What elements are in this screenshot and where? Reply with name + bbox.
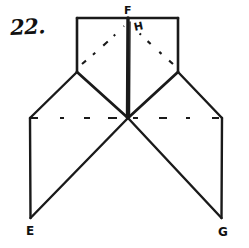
edge-left-vertical (30, 118, 31, 218)
edge-center-fold-line (128, 18, 129, 118)
edge-G-to-center (128, 118, 222, 218)
dashed-left-inner-arc (82, 26, 124, 64)
edge-right-wing-upper (178, 72, 222, 118)
edge-left-wing-upper (30, 72, 77, 118)
figure-canvas: 22. F H E G (0, 0, 249, 248)
figure-number-label: 22. (9, 15, 45, 38)
edge-left-shoulder-to-center (77, 72, 128, 118)
vertex-label-G: G (218, 226, 228, 238)
vertex-label-E: E (26, 225, 34, 237)
edge-right-shoulder-to-center (128, 72, 178, 118)
edge-center-fold-line-shadow (130, 22, 131, 116)
edge-E-to-center (31, 118, 129, 218)
edge-right-vertical (222, 118, 223, 218)
vertex-label-F: F (124, 5, 132, 16)
vertex-label-H: H (133, 20, 144, 33)
